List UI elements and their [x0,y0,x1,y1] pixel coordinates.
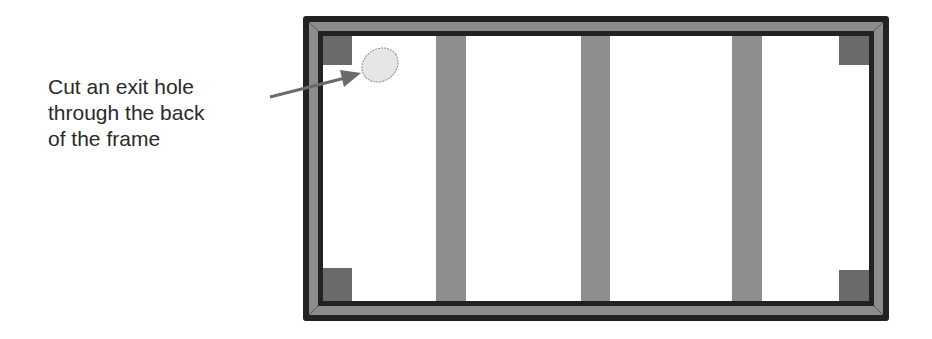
frame-diagram [0,0,932,339]
corner-block-top-right [839,36,869,65]
stud-3 [732,36,762,301]
stud-1 [436,36,466,301]
corner-block-bottom-right [839,270,869,301]
stud-2 [581,36,610,301]
corner-block-bottom-left [323,268,352,301]
corner-block-top-left [323,36,352,65]
